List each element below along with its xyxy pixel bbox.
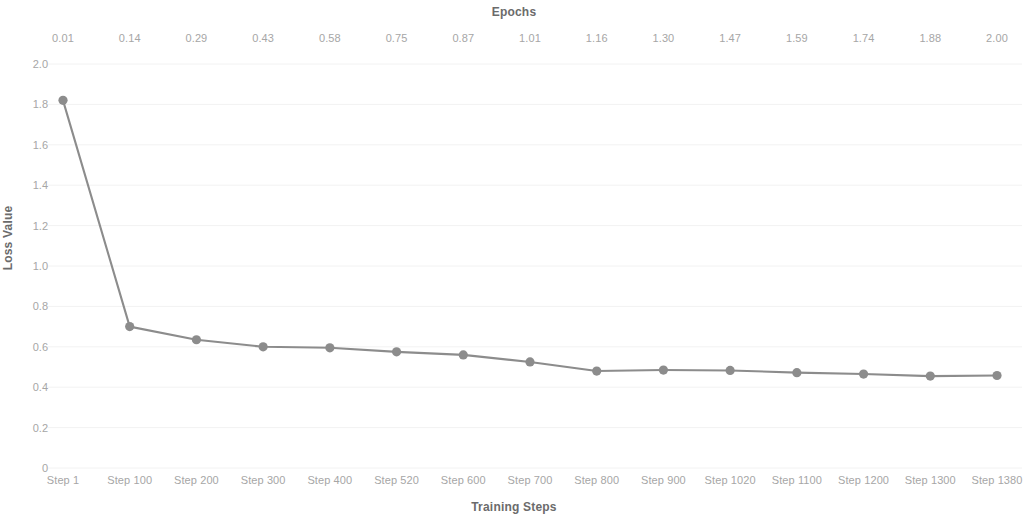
step-tick-label: Step 100 xyxy=(107,474,152,486)
series-svg xyxy=(0,0,1028,519)
loss-series-markers xyxy=(58,96,1001,381)
data-point-marker xyxy=(392,347,401,356)
step-tick-label: Step 300 xyxy=(241,474,286,486)
step-tick-label: Step 400 xyxy=(307,474,352,486)
data-point-marker xyxy=(592,366,601,375)
data-point-marker xyxy=(992,371,1001,380)
step-tick-label: Step 520 xyxy=(374,474,419,486)
bottom-axis-tick-labels: Step 1Step 100Step 200Step 300Step 400St… xyxy=(0,474,1028,490)
bottom-axis-title: Training Steps xyxy=(0,500,1028,514)
data-point-marker xyxy=(525,357,534,366)
step-tick-label: Step 1 xyxy=(47,474,79,486)
step-tick-label: Step 1020 xyxy=(705,474,756,486)
step-tick-label: Step 800 xyxy=(574,474,619,486)
step-tick-label: Step 900 xyxy=(641,474,686,486)
gridlines xyxy=(48,64,1022,468)
data-point-marker xyxy=(859,369,868,378)
data-point-marker xyxy=(792,368,801,377)
data-point-marker xyxy=(459,350,468,359)
data-point-marker xyxy=(726,366,735,375)
data-point-marker xyxy=(926,371,935,380)
data-point-marker xyxy=(325,343,334,352)
data-point-marker xyxy=(192,335,201,344)
data-point-marker xyxy=(259,342,268,351)
step-tick-label: Step 1200 xyxy=(838,474,889,486)
step-tick-label: Step 1100 xyxy=(772,474,822,486)
loss-curve-chart: Epochs 0.010.140.290.430.580.750.871.011… xyxy=(0,0,1028,519)
step-tick-label: Step 600 xyxy=(441,474,486,486)
step-tick-label: Step 1380 xyxy=(971,474,1022,486)
data-point-marker xyxy=(58,96,67,105)
loss-series-line xyxy=(63,100,997,376)
step-tick-label: Step 700 xyxy=(508,474,553,486)
plot-area xyxy=(0,0,1028,519)
data-point-marker xyxy=(125,322,134,331)
step-tick-label: Step 1300 xyxy=(905,474,956,486)
step-tick-label: Step 200 xyxy=(174,474,219,486)
data-point-marker xyxy=(659,365,668,374)
